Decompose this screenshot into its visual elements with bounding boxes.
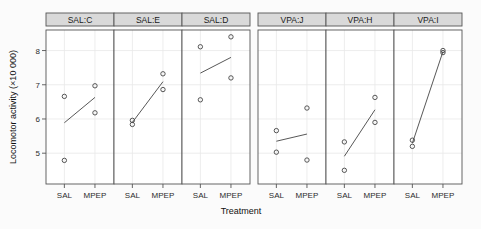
x-axis-tick-label: SAL — [125, 191, 141, 200]
x-axis-tick-label: MPEP — [364, 191, 387, 200]
panel-background — [326, 30, 394, 184]
x-axis-tick-label: MPEP — [296, 191, 319, 200]
panel-sal-c: SAL:CSALMPEP — [46, 13, 114, 200]
panel-vpa-j: VPA:JSALMPEP — [258, 13, 326, 200]
figure-container: 5678Locomotor activity (×10 000)SAL:CSAL… — [0, 0, 481, 229]
panel-sal-d: SAL:DSALMPEP — [182, 13, 250, 200]
x-axis-tick-label: MPEP — [220, 191, 243, 200]
panel-strip-label: SAL:D — [204, 15, 229, 25]
panel-background — [114, 30, 182, 184]
panel-strip-label: SAL:C — [68, 15, 93, 25]
x-axis-title: Treatment — [221, 206, 262, 216]
y-axis-tick-label: 7 — [36, 81, 41, 90]
panel-strip-label: VPA:H — [348, 15, 373, 25]
panel-strip-label: VPA:I — [417, 15, 438, 25]
panel-vpa-h: VPA:HSALMPEP — [326, 13, 394, 200]
x-axis-tick-label: MPEP — [84, 191, 107, 200]
panel-background — [258, 30, 326, 184]
panel-strip-label: SAL:E — [136, 15, 160, 25]
locomotor-activity-scatter-chart: 5678Locomotor activity (×10 000)SAL:CSAL… — [0, 0, 481, 229]
y-axis-title: Locomotor activity (×10 000) — [8, 50, 18, 164]
y-axis-tick-label: 5 — [36, 149, 41, 158]
panel-strip-label: VPA:J — [281, 15, 304, 25]
x-axis-tick-label: SAL — [57, 191, 73, 200]
panel-background — [182, 30, 250, 184]
x-axis-tick-label: SAL — [269, 191, 285, 200]
panel-vpa-i: VPA:ISALMPEP — [394, 13, 462, 200]
x-axis-tick-label: SAL — [337, 191, 353, 200]
panel-sal-e: SAL:ESALMPEP — [114, 13, 182, 200]
panel-background — [394, 30, 462, 184]
x-axis-tick-label: MPEP — [432, 191, 455, 200]
panel-background — [46, 30, 114, 184]
y-axis-tick-label: 6 — [36, 115, 41, 124]
y-axis-tick-label: 8 — [36, 47, 41, 56]
x-axis-tick-label: SAL — [405, 191, 421, 200]
x-axis-tick-label: MPEP — [152, 191, 175, 200]
x-axis-tick-label: SAL — [193, 191, 209, 200]
